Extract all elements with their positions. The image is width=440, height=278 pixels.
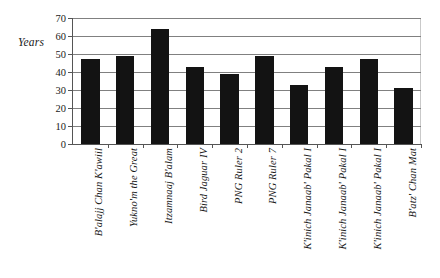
y-axis-title: Years bbox=[18, 36, 44, 48]
bar bbox=[116, 56, 134, 144]
x-axis-label: Itzamnaaj B'alam bbox=[163, 148, 174, 224]
x-axis-label: PNG Ruler 7 bbox=[267, 148, 278, 204]
bar bbox=[81, 59, 99, 144]
x-axis-label: K'inich Janaab' Pakal I bbox=[337, 148, 348, 250]
bar bbox=[360, 59, 378, 144]
x-axis-labels-group: B'alajj Chan K'awiilYukno'm the GreatItz… bbox=[72, 148, 420, 274]
y-axis-tick-label: 60 bbox=[56, 31, 67, 42]
y-axis-tick-label: 40 bbox=[56, 67, 67, 78]
x-axis-label: Yukno'm the Great bbox=[128, 148, 139, 227]
x-axis-label: B'atz' Chan Mat bbox=[407, 148, 418, 218]
y-axis-tick-mark bbox=[68, 144, 73, 145]
x-axis-label: Bird Jaguar IV bbox=[198, 148, 209, 213]
bar bbox=[290, 85, 308, 144]
bar-chart-figure: Years 010203040506070 B'alajj Chan K'awi… bbox=[0, 0, 440, 278]
bar bbox=[151, 29, 169, 144]
y-axis-tick-label: 30 bbox=[56, 85, 67, 96]
bar bbox=[186, 67, 204, 144]
bar bbox=[220, 74, 238, 144]
bars-group bbox=[73, 18, 421, 144]
y-axis-tick-label: 20 bbox=[56, 103, 67, 114]
y-axis-tick-label: 0 bbox=[61, 139, 66, 150]
y-axis-tick-label: 50 bbox=[56, 49, 67, 60]
plot-area: 010203040506070 bbox=[72, 18, 421, 145]
bar bbox=[394, 88, 412, 144]
x-axis-label: K'inich Janaab' Pakal I bbox=[372, 148, 383, 250]
bar bbox=[255, 56, 273, 144]
y-axis-tick-label: 70 bbox=[56, 13, 67, 24]
x-axis-label: PNG Ruler 2 bbox=[233, 148, 244, 204]
x-axis-tick-mark bbox=[421, 144, 422, 148]
x-axis-label: B'alajj Chan K'awiil bbox=[93, 148, 104, 236]
y-axis-tick-label: 10 bbox=[56, 121, 67, 132]
x-axis-label: K'inich Janaab' Pakal I bbox=[302, 148, 313, 250]
bar bbox=[325, 67, 343, 144]
